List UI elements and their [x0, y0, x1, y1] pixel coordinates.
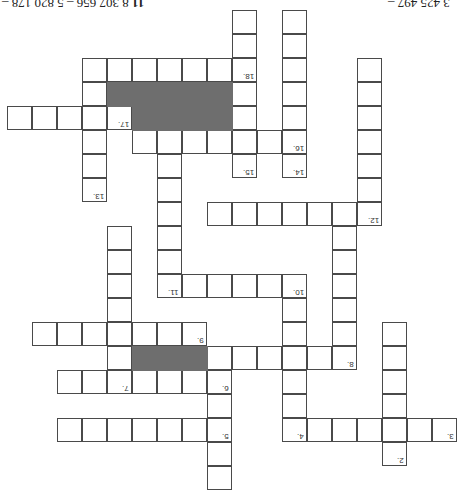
- crossword-cell[interactable]: [207, 58, 232, 82]
- crossword-cell[interactable]: [157, 178, 182, 202]
- crossword-cell[interactable]: [82, 58, 107, 82]
- crossword-cell[interactable]: 6.: [207, 370, 232, 394]
- crossword-cell[interactable]: [132, 370, 157, 394]
- crossword-cell[interactable]: 9.: [182, 322, 207, 346]
- crossword-cell[interactable]: [282, 10, 307, 34]
- crossword-cell[interactable]: [307, 346, 332, 370]
- crossword-cell[interactable]: 3.: [432, 418, 457, 442]
- crossword-cell[interactable]: [82, 106, 107, 130]
- crossword-cell[interactable]: [207, 466, 232, 490]
- crossword-cell[interactable]: [232, 346, 257, 370]
- crossword-cell[interactable]: [357, 106, 382, 130]
- crossword-cell[interactable]: [382, 322, 407, 346]
- crossword-cell[interactable]: [57, 322, 82, 346]
- crossword-cell[interactable]: [157, 370, 182, 394]
- crossword-cell[interactable]: [332, 226, 357, 250]
- crossword-cell[interactable]: [257, 274, 282, 298]
- crossword-cell[interactable]: [282, 202, 307, 226]
- crossword-cell[interactable]: [182, 274, 207, 298]
- crossword-cell[interactable]: [282, 322, 307, 346]
- crossword-cell[interactable]: 16.: [282, 130, 307, 154]
- crossword-cell[interactable]: [232, 34, 257, 58]
- crossword-cell[interactable]: [57, 418, 82, 442]
- crossword-cell[interactable]: [82, 130, 107, 154]
- crossword-cell[interactable]: [207, 394, 232, 418]
- crossword-cell[interactable]: [82, 418, 107, 442]
- crossword-cell[interactable]: [107, 298, 132, 322]
- crossword-cell[interactable]: 2.: [382, 442, 407, 466]
- crossword-cell[interactable]: [332, 418, 357, 442]
- crossword-cell[interactable]: [207, 442, 232, 466]
- crossword-cell[interactable]: [207, 202, 232, 226]
- crossword-cell[interactable]: [257, 346, 282, 370]
- crossword-cell[interactable]: [57, 106, 82, 130]
- crossword-cell[interactable]: 10.: [282, 274, 307, 298]
- crossword-cell[interactable]: [232, 10, 257, 34]
- crossword-cell[interactable]: 14.: [282, 154, 307, 178]
- crossword-cell[interactable]: [182, 370, 207, 394]
- crossword-cell[interactable]: [382, 346, 407, 370]
- crossword-cell[interactable]: [332, 274, 357, 298]
- crossword-cell[interactable]: [107, 322, 132, 346]
- crossword-cell[interactable]: 4.: [282, 418, 307, 442]
- crossword-cell[interactable]: [182, 418, 207, 442]
- crossword-cell[interactable]: [107, 58, 132, 82]
- crossword-cell[interactable]: [157, 250, 182, 274]
- crossword-cell[interactable]: 13.: [82, 178, 107, 202]
- crossword-cell[interactable]: [282, 298, 307, 322]
- crossword-cell[interactable]: [307, 202, 332, 226]
- crossword-cell[interactable]: [207, 274, 232, 298]
- crossword-cell[interactable]: [32, 106, 57, 130]
- crossword-cell[interactable]: [332, 322, 357, 346]
- crossword-cell[interactable]: [157, 130, 182, 154]
- crossword-cell[interactable]: [382, 394, 407, 418]
- crossword-cell[interactable]: [82, 370, 107, 394]
- crossword-cell[interactable]: [107, 418, 132, 442]
- crossword-cell[interactable]: [282, 370, 307, 394]
- crossword-cell[interactable]: [257, 130, 282, 154]
- crossword-cell[interactable]: [132, 58, 157, 82]
- crossword-cell[interactable]: [282, 394, 307, 418]
- crossword-cell[interactable]: [132, 130, 157, 154]
- crossword-cell[interactable]: [182, 58, 207, 82]
- crossword-cell[interactable]: [107, 250, 132, 274]
- crossword-cell[interactable]: [282, 106, 307, 130]
- crossword-cell[interactable]: [357, 130, 382, 154]
- crossword-cell[interactable]: [232, 274, 257, 298]
- crossword-cell[interactable]: [157, 322, 182, 346]
- crossword-cell[interactable]: [157, 154, 182, 178]
- crossword-cell[interactable]: [357, 154, 382, 178]
- crossword-cell[interactable]: [132, 418, 157, 442]
- crossword-cell[interactable]: [82, 322, 107, 346]
- crossword-cell[interactable]: [157, 418, 182, 442]
- crossword-cell[interactable]: [57, 370, 82, 394]
- crossword-cell[interactable]: [332, 202, 357, 226]
- crossword-cell[interactable]: [82, 154, 107, 178]
- crossword-cell[interactable]: 12.: [357, 202, 382, 226]
- crossword-cell[interactable]: 11.: [157, 274, 182, 298]
- crossword-cell[interactable]: [357, 178, 382, 202]
- crossword-cell[interactable]: [157, 58, 182, 82]
- crossword-cell[interactable]: [357, 82, 382, 106]
- crossword-cell[interactable]: [382, 370, 407, 394]
- crossword-cell[interactable]: [107, 346, 132, 370]
- crossword-cell[interactable]: 18.: [232, 58, 257, 82]
- crossword-cell[interactable]: [232, 82, 257, 106]
- crossword-cell[interactable]: 8.: [332, 346, 357, 370]
- crossword-cell[interactable]: [357, 418, 382, 442]
- crossword-cell[interactable]: [182, 130, 207, 154]
- crossword-cell[interactable]: [382, 418, 407, 442]
- crossword-cell[interactable]: 7.: [107, 370, 132, 394]
- crossword-cell[interactable]: [157, 202, 182, 226]
- crossword-cell[interactable]: [332, 298, 357, 322]
- crossword-cell[interactable]: [282, 58, 307, 82]
- crossword-cell[interactable]: 17.: [107, 106, 132, 130]
- crossword-cell[interactable]: [232, 106, 257, 130]
- crossword-cell[interactable]: [357, 58, 382, 82]
- crossword-cell[interactable]: [332, 250, 357, 274]
- crossword-cell[interactable]: [207, 130, 232, 154]
- crossword-cell[interactable]: 5.: [207, 418, 232, 442]
- crossword-cell[interactable]: [82, 82, 107, 106]
- crossword-cell[interactable]: [282, 34, 307, 58]
- crossword-cell[interactable]: [32, 322, 57, 346]
